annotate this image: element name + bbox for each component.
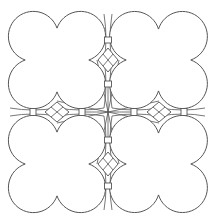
connector-rect	[105, 37, 112, 43]
quatrefoil-top-right	[110, 11, 208, 108]
quatrefoil-top-left	[8, 11, 105, 108]
connector-rect	[30, 109, 36, 116]
connector-rect	[181, 109, 187, 116]
connector-rect	[105, 81, 112, 87]
connector-rect	[105, 137, 112, 143]
quatrefoil-bottom-right	[110, 115, 208, 212]
diagram-svg	[0, 0, 215, 224]
quatrefoil-bottom-left	[8, 115, 105, 212]
connector-rect	[79, 109, 85, 116]
tiling-diagram	[0, 0, 215, 224]
connector-rect	[105, 183, 112, 189]
connector-rect	[131, 109, 137, 116]
